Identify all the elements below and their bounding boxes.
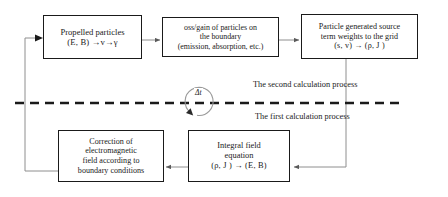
label-second-calculation-process: The second calculation process [253, 80, 357, 89]
node-source-term-formula: (s, v) → (ρ, J ) [334, 41, 385, 51]
node-correction-line4: boundary conditions [78, 166, 144, 176]
node-particle-generated-source-term[interactable]: Particle generated source term weights t… [301, 14, 418, 59]
node-propelled-particles-formula: (E, B) →v→γ [67, 37, 118, 47]
flow-diagram: Propelled particles (E, B) →v→γ oss/gain… [0, 0, 448, 197]
node-loss-gain-of-particles[interactable]: oss/gain of particles on the boundary (e… [162, 17, 279, 57]
node-loss-gain-line2: the boundary [200, 32, 241, 41]
node-correction-line3: field according to [82, 156, 139, 166]
node-source-term-line2: term weights to the grid [321, 32, 398, 42]
node-integral-field-equation[interactable]: Integral field equation (ρ, J ) → (E, B) [188, 130, 290, 182]
node-propelled-particles-line1: Propelled particles [60, 27, 124, 37]
node-loss-gain-line3: (emission, absorption, etc.) [178, 42, 264, 51]
label-delta-t: Δt [194, 88, 203, 97]
node-loss-gain-line1: oss/gain of particles on [184, 23, 257, 32]
node-integral-field-formula: (ρ, J ) → (E, B) [211, 161, 267, 171]
node-correction-of-em-field[interactable]: Correction of electromagnetic field acco… [58, 130, 164, 182]
node-propelled-particles[interactable]: Propelled particles (E, B) →v→γ [43, 15, 142, 59]
node-source-term-line1: Particle generated source [319, 22, 400, 32]
node-correction-line2: electromagnetic [85, 146, 137, 156]
node-integral-field-line2: equation [225, 151, 254, 161]
label-first-calculation-process: The first calculation process [255, 112, 350, 121]
node-correction-line1: Correction of [89, 137, 132, 147]
node-integral-field-line1: Integral field [217, 141, 260, 151]
